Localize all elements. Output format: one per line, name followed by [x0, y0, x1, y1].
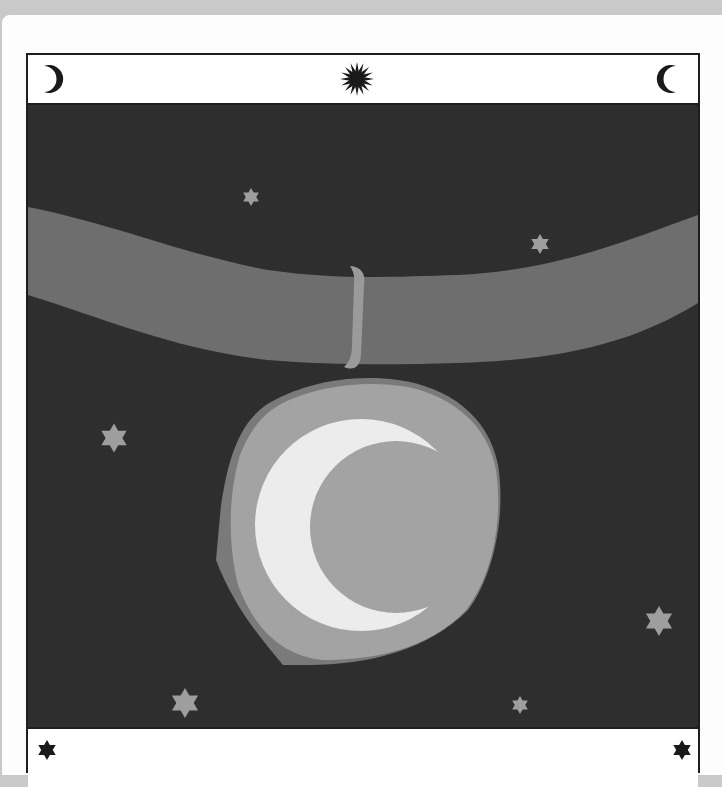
card	[2, 15, 722, 775]
six-point-star-icon	[671, 739, 693, 761]
night-sky-scene	[28, 105, 698, 727]
sun-burst-icon	[339, 61, 375, 97]
pendant-illustration	[28, 105, 698, 727]
six-point-star-icon	[36, 739, 58, 761]
star-icon	[101, 424, 126, 453]
star-icon	[172, 688, 198, 718]
header-band	[28, 55, 698, 105]
star-icon	[243, 188, 259, 206]
star-icon	[646, 606, 672, 636]
moon-face	[310, 441, 482, 613]
star-icon	[531, 234, 548, 254]
waning-crescent-icon	[650, 63, 682, 95]
illustration-frame	[26, 53, 700, 773]
waxing-crescent-icon	[38, 63, 70, 95]
star-icon	[512, 696, 528, 714]
footer-band	[28, 727, 698, 787]
